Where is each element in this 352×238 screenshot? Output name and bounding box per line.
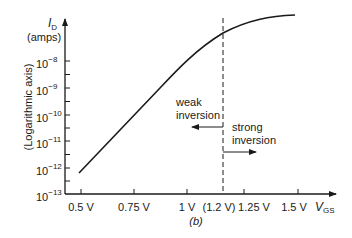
svg-text:10−12: 10−12	[36, 162, 62, 177]
strong-inversion-label-2: inversion	[232, 134, 276, 146]
y-tick-labels: 10−8 10−9 10−10 10−11 10−12 10−13	[36, 55, 62, 203]
svg-text:1.5 V: 1.5 V	[281, 201, 307, 213]
weak-inversion-label-2: inversion	[176, 109, 220, 121]
id-vs-vgs-chart: 10−8 10−9 10−10 10−11 10−12 10−13 ID (am…	[0, 0, 352, 238]
svg-text:10−11: 10−11	[36, 135, 62, 150]
svg-text:(1.2 V): (1.2 V)	[202, 201, 235, 213]
svg-text:10−8: 10−8	[36, 55, 58, 70]
x-tick-labels: 0.5 V 0.75 V 1 V (1.2 V) 1.25 V 1.5 V	[68, 201, 307, 213]
x-ticks	[81, 189, 298, 194]
y-axis-units: (amps)	[27, 31, 61, 43]
strong-inversion-label: strong	[232, 121, 263, 133]
y-axis-note: (Logarithmic axis)	[22, 64, 34, 151]
svg-text:10−13: 10−13	[36, 188, 62, 203]
weak-inversion-label: weak	[175, 96, 202, 108]
svg-text:0.5 V: 0.5 V	[68, 201, 94, 213]
svg-text:10−10: 10−10	[36, 109, 62, 124]
x-axis-title: VGS	[315, 200, 335, 215]
y-axis-title: ID	[48, 16, 57, 32]
id-curve	[79, 15, 295, 173]
svg-text:0.75 V: 0.75 V	[118, 201, 150, 213]
svg-text:1.25 V: 1.25 V	[238, 201, 270, 213]
svg-text:1 V: 1 V	[179, 201, 196, 213]
figure-caption: (b)	[189, 215, 203, 227]
y-ticks	[65, 61, 70, 181]
svg-text:10−9: 10−9	[36, 82, 58, 97]
